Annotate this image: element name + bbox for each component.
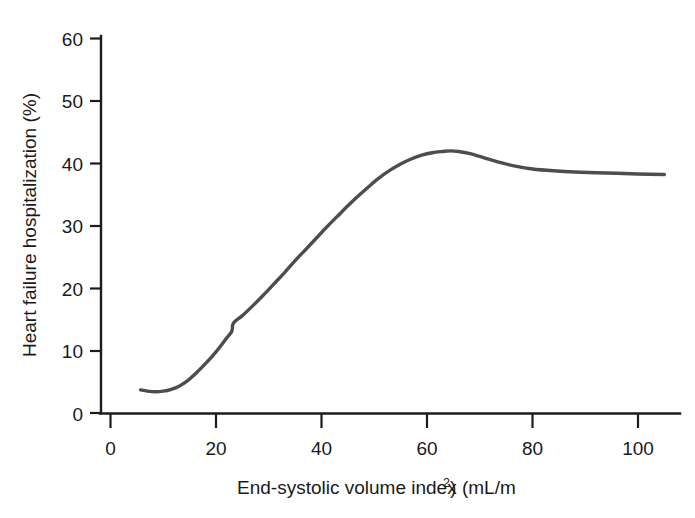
data-series-line xyxy=(141,151,665,392)
y-tick-label-60: 60 xyxy=(62,29,83,50)
x-axis-tick-labels: 0 20 40 60 80 100 xyxy=(105,438,654,459)
x-axis-title-main: End-systolic volume index (mL/m xyxy=(237,477,516,498)
x-tick-label-0: 0 xyxy=(105,438,116,459)
y-axis-ticks xyxy=(90,39,101,414)
y-tick-label-0: 0 xyxy=(72,404,83,425)
x-axis-title: End-systolic volume index (mL/m 2 ) xyxy=(237,476,516,498)
y-tick-label-50: 50 xyxy=(62,91,83,112)
x-axis-title-tail: ) xyxy=(450,477,456,498)
y-axis-tick-labels: 60 50 40 30 20 10 0 xyxy=(62,29,83,425)
chart-figure: 60 50 40 30 20 10 0 0 20 40 60 80 100 He… xyxy=(0,0,695,518)
x-tick-label-100: 100 xyxy=(622,438,654,459)
y-tick-label-10: 10 xyxy=(62,341,83,362)
y-axis-title: Heart failure hospitalization (%) xyxy=(19,93,40,357)
x-tick-label-20: 20 xyxy=(205,438,226,459)
x-axis-ticks xyxy=(111,414,639,428)
x-tick-label-60: 60 xyxy=(416,438,437,459)
chart-plot-area: 60 50 40 30 20 10 0 0 20 40 60 80 100 He… xyxy=(0,0,695,518)
x-axis-title-superscript: 2 xyxy=(443,476,450,490)
x-tick-label-40: 40 xyxy=(311,438,332,459)
y-tick-label-20: 20 xyxy=(62,279,83,300)
y-tick-label-30: 30 xyxy=(62,216,83,237)
x-tick-label-80: 80 xyxy=(522,438,543,459)
y-tick-label-40: 40 xyxy=(62,154,83,175)
